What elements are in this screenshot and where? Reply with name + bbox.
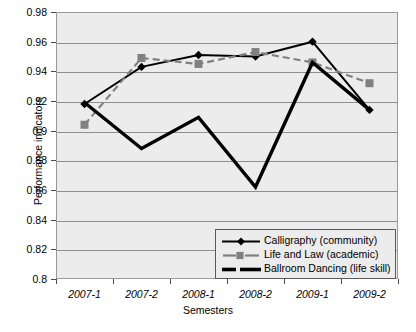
data-point-marker (366, 79, 374, 87)
legend-key-icon (221, 248, 261, 261)
y-axis-title: Performance indicators (32, 51, 44, 251)
data-point-marker (195, 60, 203, 68)
legend-label: Calligraphy (community) (264, 234, 377, 247)
series-line (85, 52, 370, 125)
x-axis-tick-label: 2009-1 (296, 288, 329, 300)
y-axis-tick-label: 0.8 (32, 273, 47, 285)
x-axis-tick-label: 2009-2 (353, 288, 386, 300)
x-axis-tick-mark (284, 279, 285, 284)
x-axis-tick-mark (56, 279, 57, 284)
data-point-marker (252, 48, 260, 56)
x-axis-title: Semesters (0, 304, 416, 316)
legend: Calligraphy (community)Life and Law (aca… (215, 229, 396, 279)
x-axis-tick-mark (113, 279, 114, 284)
data-point-marker (194, 51, 202, 59)
x-axis-tick-label: 2007-1 (68, 288, 101, 300)
x-axis-tick-mark (227, 279, 228, 284)
legend-key-icon (221, 262, 261, 275)
data-point-marker (138, 54, 146, 62)
x-axis-tick-label: 2008-1 (182, 288, 215, 300)
legend-item: Calligraphy (community) (221, 233, 391, 247)
series-line (85, 62, 370, 187)
legend-item: Ballroom Dancing (life skill) (221, 261, 391, 275)
y-axis-tick-label: 0.98 (27, 6, 47, 18)
x-axis-tick-mark (398, 279, 399, 284)
x-axis-tick-label: 2007-2 (125, 288, 158, 300)
series-3 (85, 62, 370, 187)
x-axis-tick-label: 2008-2 (239, 288, 272, 300)
x-axis-tick-mark (170, 279, 171, 284)
data-point-marker (81, 121, 89, 129)
x-axis-tick-mark (341, 279, 342, 284)
performance-indicators-line-chart: 0.980.960.940.920.90.880.860.840.820.8 P… (0, 0, 416, 332)
legend-key-icon (221, 234, 261, 247)
series-2 (81, 48, 374, 129)
legend-item: Life and Law (academic) (221, 247, 391, 261)
y-axis: 0.980.960.940.920.90.880.860.840.820.8 (0, 12, 56, 279)
y-axis-tick-label: 0.96 (27, 36, 47, 48)
legend-label: Ballroom Dancing (life skill) (264, 262, 391, 275)
legend-label: Life and Law (academic) (264, 248, 378, 261)
